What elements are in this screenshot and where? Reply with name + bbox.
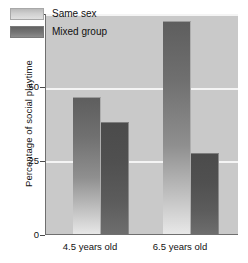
y-tick-label-25: 25 — [28, 156, 39, 166]
y-tick-label-0: 0 — [34, 230, 39, 240]
chart-legend: Same sex Mixed group — [10, 6, 140, 42]
legend-swatch-same-sex — [10, 8, 44, 20]
bar-same-sex-4-5 — [73, 97, 101, 235]
bar-mixed-group-4-5 — [101, 122, 129, 235]
y-tick-label-50: 50 — [28, 82, 39, 92]
legend-item-mixed-group: Mixed group — [10, 24, 140, 39]
x-axis-label-group-2: 6.5 years old — [134, 241, 226, 252]
bar-mixed-group-6-5 — [191, 153, 219, 236]
legend-swatch-mixed-group — [10, 26, 44, 38]
y-tick-0: 0 — [18, 230, 45, 240]
legend-label-mixed-group: Mixed group — [52, 26, 107, 37]
bar-chart-figure: Percentage of social playtime 75 50 25 0 — [0, 0, 248, 263]
bar-same-sex-6-5 — [163, 21, 191, 235]
plot-area — [45, 14, 238, 235]
y-tick-50: 50 — [18, 82, 45, 92]
legend-label-same-sex: Same sex — [52, 8, 96, 19]
y-tick-25: 25 — [18, 156, 45, 166]
x-axis-label-group-1: 4.5 years old — [44, 241, 136, 252]
legend-item-same-sex: Same sex — [10, 6, 140, 21]
gridline-50 — [45, 88, 238, 90]
